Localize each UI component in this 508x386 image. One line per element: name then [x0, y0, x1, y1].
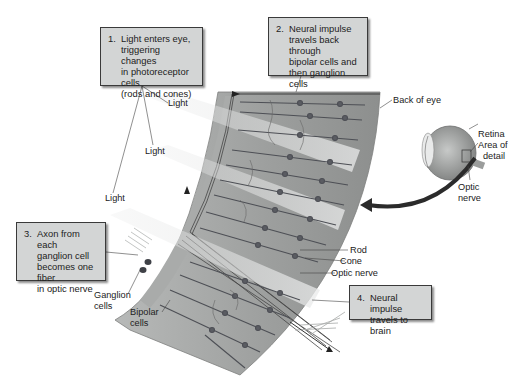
- label-light-1: Light: [168, 98, 188, 109]
- label-back-of-eye: Back of eye: [393, 95, 441, 106]
- callout-line: Axon from each: [37, 228, 99, 250]
- callout-step-3: 3. Axon from each ganglion cell becomes …: [16, 222, 106, 281]
- callout-line: in photoreceptor cells: [121, 66, 196, 88]
- callout-line: Neural impulse: [370, 292, 425, 314]
- callout-step-1: 1. Light enters eye, triggering changes …: [100, 27, 203, 86]
- callout-line: Light enters eye,: [121, 33, 196, 44]
- label-ganglion-cells-2: cells: [94, 301, 112, 312]
- callout-line: triggering changes: [121, 44, 196, 66]
- retina-diagram: 1. Light enters eye, triggering changes …: [0, 0, 508, 386]
- label-optic-nerve: Optic nerve: [331, 268, 378, 279]
- callout-line: bipolar cells and: [289, 56, 361, 67]
- step-number: 3.: [24, 228, 32, 239]
- callout-line: becomes one fiber: [37, 261, 99, 283]
- callout-line: in optic nerve: [37, 283, 99, 294]
- callout-line: travels to brain: [370, 314, 425, 336]
- step-number: 1.: [108, 33, 116, 44]
- label-cone: Cone: [340, 256, 362, 267]
- label-retina: Retina: [478, 129, 505, 140]
- callout-line: Neural impulse: [289, 23, 361, 34]
- callout-line: then ganglion cells: [289, 67, 361, 89]
- label-area-of-detail-2: detail: [483, 151, 505, 162]
- retina-section: [110, 91, 380, 375]
- retina-illustration: [0, 0, 508, 386]
- label-optic-eye: Optic: [458, 182, 479, 193]
- label-rod: Rod: [350, 245, 367, 256]
- callout-step-2: 2. Neural impulse travels back through b…: [268, 17, 368, 76]
- label-bipolar-cells: Bipolar: [130, 307, 159, 318]
- step-number: 4.: [357, 292, 365, 303]
- callout-step-4: 4. Neural impulse travels to brain: [349, 285, 432, 320]
- callout-line: ganglion cell: [37, 250, 99, 261]
- callout-line: travels back through: [289, 34, 361, 56]
- label-nerve-eye: nerve: [458, 193, 481, 204]
- label-bipolar-cells-2: cells: [130, 318, 148, 329]
- label-area-of-detail: Area of: [478, 140, 508, 151]
- step-number: 2.: [276, 23, 284, 34]
- label-light-3: Light: [105, 193, 125, 204]
- label-light-2: Light: [145, 146, 165, 157]
- label-ganglion-cells: Ganglion: [94, 290, 131, 301]
